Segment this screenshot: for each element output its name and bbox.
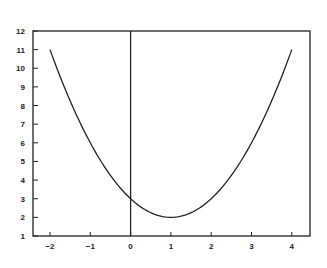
x-axis-ticks: −2−101234: [45, 232, 294, 251]
y-tick-label: 3: [21, 195, 26, 204]
x-tick-label: 3: [249, 242, 254, 251]
x-tick-label: 1: [169, 242, 174, 251]
y-tick-label: 4: [21, 176, 26, 185]
y-tick-label: 6: [21, 139, 26, 148]
y-tick-label: 8: [21, 102, 26, 111]
y-tick-label: 11: [17, 46, 26, 55]
x-tick-label: 2: [209, 242, 214, 251]
y-tick-label: 1: [21, 232, 26, 241]
parabola-chart: −2−101234 123456789101112: [0, 0, 327, 268]
x-tick-label: 0: [128, 242, 133, 251]
y-tick-label: 2: [21, 213, 26, 222]
y-tick-label: 12: [16, 27, 25, 36]
x-tick-label: 4: [290, 242, 295, 251]
x-tick-label: −2: [45, 242, 55, 251]
x-tick-label: −1: [86, 242, 96, 251]
y-tick-label: 10: [16, 64, 25, 73]
plot-frame: [33, 31, 310, 236]
series-line: [50, 50, 292, 218]
parabola-curve: [50, 50, 292, 218]
y-tick-label: 5: [21, 157, 26, 166]
plot-border: [33, 31, 310, 236]
y-axis-ticks: 123456789101112: [16, 27, 38, 241]
y-tick-label: 9: [21, 83, 26, 92]
y-tick-label: 7: [21, 120, 26, 129]
